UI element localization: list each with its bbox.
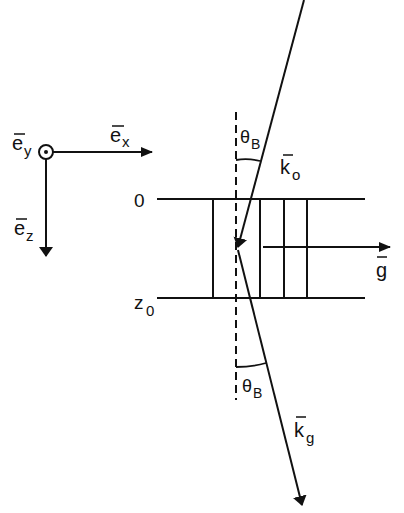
slab-top-label: 0 [134,190,145,211]
ez-label: e [14,217,25,239]
incident-beam-ko-arrow [238,0,304,247]
ey-subscript: y [24,142,32,159]
incident-beam-subscript: o [292,166,300,183]
reciprocal-vector-label: g [376,259,387,281]
bragg-angle-arc-bottom [236,363,266,367]
coordinate-axes: e x e y e z [12,124,152,256]
diffracted-beam-label: k [294,419,305,441]
ex-label: e [110,124,121,146]
diffracted-beam-subscript: g [306,429,314,446]
bragg-angle-arc-top [236,159,260,161]
ex-subscript: x [122,133,130,150]
bragg-angle-bottom-subscript: B [253,385,262,401]
slab-bottom-label: z [134,292,144,313]
bragg-angle-top-subscript: B [251,136,260,152]
ey-label: e [12,132,23,154]
slab-bottom-subscript: 0 [146,302,154,319]
diagram-canvas: e x e y e z 0 z 0 g k o k g θ B θ B [0,0,404,513]
bragg-angle-top-label: θ [240,127,250,147]
ey-dot [44,150,48,154]
bragg-angle-bottom-label: θ [242,376,252,396]
ez-subscript: z [26,227,34,244]
incident-beam-label: k [280,156,291,178]
